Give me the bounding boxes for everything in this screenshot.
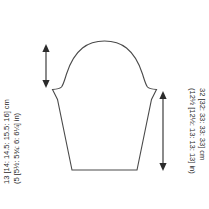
cap-height-label: 13 [14: 14.5: 15.5: 16] cm (5 [5½: 5¾: 6…: [2, 14, 24, 184]
cap-height-label-imperial: (5 [5½: 5¾: 6: 6¼] in): [12, 14, 22, 184]
cap-height-arrowhead-bottom: [42, 80, 49, 88]
sleeve-length-arrow: [159, 91, 166, 171]
schematic-drawing: [0, 0, 209, 209]
sleeve-length-arrowhead-bottom: [159, 163, 166, 171]
cap-height-label-metric: 13 [14: 14.5: 15.5: 16] cm: [2, 14, 12, 184]
cap-height-arrow: [42, 44, 49, 88]
sleeve-length-label-imperial: (12½ [12½: 13: 13: 13] in): [188, 88, 198, 209]
sleeve-length-label-metric: 32 [32: 33: 33: 33] cm: [197, 88, 207, 209]
sleeve-outline-path: [53, 41, 157, 170]
sleeve-length-arrowhead-top: [159, 91, 166, 99]
sleeve-outline: [53, 41, 157, 170]
sleeve-length-label: 32 [32: 33: 33: 33] cm (12½ [12½: 13: 13…: [185, 88, 207, 209]
cap-height-arrowhead-top: [42, 44, 49, 52]
sleeve-schematic-figure: 13 [14: 14.5: 15.5: 16] cm (5 [5½: 5¾: 6…: [0, 0, 209, 209]
